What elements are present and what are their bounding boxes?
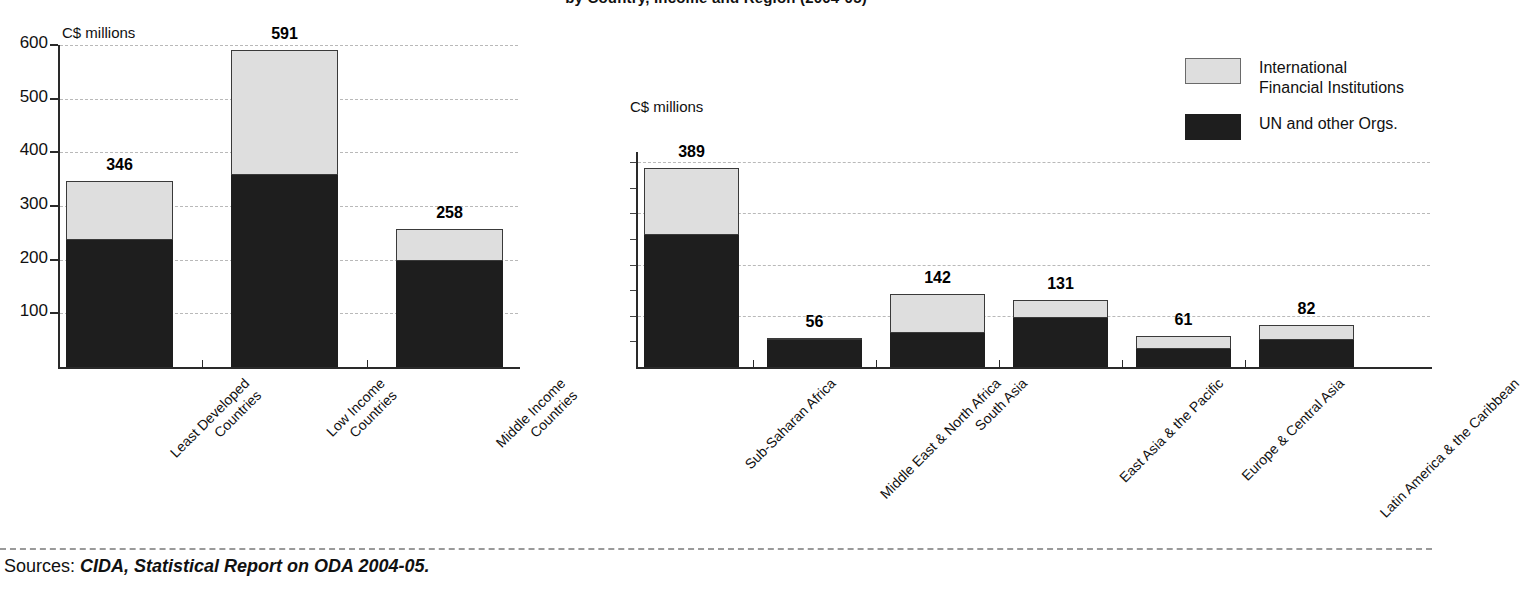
bar-segment-ifi[interactable] [66, 181, 173, 240]
x-axis-category-label: Middle Income Countries [492, 375, 580, 463]
y-axis-tick [630, 265, 636, 266]
bar-segment-un[interactable] [231, 175, 338, 367]
x-axis-category-label: Middle East & North Africa [876, 375, 1003, 502]
income-chart: C$ millions100200300400500600346Least De… [0, 0, 620, 590]
source-citation: CIDA, Statistical Report on ODA 2004-05. [80, 556, 429, 576]
gridline [638, 265, 1430, 266]
bar-value-label: 131 [1047, 275, 1074, 293]
y-axis-tick [630, 162, 636, 163]
legend-swatch-ifi [1185, 58, 1241, 84]
legend-item-un[interactable]: UN and other Orgs. [1185, 114, 1398, 140]
x-axis-line [58, 367, 520, 369]
source-prefix: Sources: [4, 556, 80, 576]
x-axis-tick [202, 360, 203, 367]
y-axis-tick [50, 44, 58, 46]
bar-segment-ifi[interactable] [644, 168, 739, 235]
y-axis-tick [50, 205, 58, 207]
bar[interactable] [396, 229, 503, 367]
x-axis-tick [876, 360, 877, 367]
bar[interactable] [1259, 325, 1354, 367]
y-axis-tick [630, 341, 636, 342]
bar-segment-un[interactable] [66, 240, 173, 367]
x-axis-category-label: Least Developed Countries [166, 375, 264, 473]
bar-segment-un[interactable] [644, 235, 739, 367]
y-axis-line [636, 152, 638, 369]
x-axis-category-label: East Asia & the Pacific [1116, 375, 1227, 486]
y-axis-tick [630, 213, 636, 214]
source-note: Sources: CIDA, Statistical Report on ODA… [4, 556, 429, 577]
bar-value-label: 82 [1298, 300, 1316, 318]
x-axis-line [636, 367, 1432, 369]
y-axis-unit-label: C$ millions [62, 24, 135, 41]
y-axis-tick-label: 100 [0, 301, 48, 321]
bar-segment-ifi[interactable] [1259, 325, 1354, 340]
x-axis-tick [1122, 360, 1123, 367]
y-axis-tick [630, 316, 636, 317]
y-axis-tick [630, 239, 636, 240]
legend: International Financial Institutions UN … [1185, 58, 1435, 144]
gridline [638, 213, 1430, 214]
x-axis-category-label: Low Income Countries [323, 375, 400, 452]
bar-value-label: 56 [806, 313, 824, 331]
y-axis-tick [630, 188, 636, 189]
bar[interactable] [1136, 336, 1231, 367]
bar-segment-un[interactable] [1013, 318, 1108, 367]
y-axis-line [58, 45, 60, 369]
bar-value-label: 258 [436, 204, 463, 222]
y-axis-tick [630, 290, 636, 291]
x-axis-tick [753, 360, 754, 367]
bar-segment-ifi[interactable] [890, 294, 985, 332]
y-axis-unit-label: C$ millions [630, 98, 703, 115]
y-axis-tick-label: 200 [0, 248, 48, 268]
bar-value-label: 346 [106, 156, 133, 174]
y-axis-tick [50, 98, 58, 100]
bar-segment-ifi[interactable] [231, 50, 338, 175]
y-axis-tick [50, 312, 58, 314]
legend-item-ifi[interactable]: International Financial Institutions [1185, 58, 1404, 97]
x-axis-category-label: Europe & Central Asia [1238, 375, 1347, 484]
legend-label-un: UN and other Orgs. [1259, 114, 1398, 134]
bar-segment-un[interactable] [1136, 349, 1231, 367]
y-axis-tick [50, 151, 58, 153]
bar[interactable] [767, 338, 862, 367]
x-axis-category-label: Latin America & the Caribbean [1376, 375, 1522, 521]
bar-segment-un[interactable] [890, 333, 985, 367]
y-axis-tick-label: 400 [0, 140, 48, 160]
bar-segment-un[interactable] [396, 261, 503, 367]
y-axis-tick-label: 600 [0, 33, 48, 53]
x-axis-category-label: Sub-Saharan Africa [741, 375, 839, 473]
bar[interactable] [231, 50, 338, 367]
x-axis-tick [1245, 360, 1246, 367]
bar-segment-ifi[interactable] [1013, 300, 1108, 318]
bar-value-label: 591 [271, 25, 298, 43]
bar[interactable] [66, 181, 173, 367]
y-axis-tick-label: 500 [0, 87, 48, 107]
x-axis-tick [999, 360, 1000, 367]
bar-value-label: 389 [678, 143, 705, 161]
bar-segment-un[interactable] [1259, 340, 1354, 367]
y-axis-tick-label: 300 [0, 194, 48, 214]
gridline [60, 45, 518, 46]
bar-value-label: 142 [924, 269, 951, 287]
legend-swatch-un [1185, 114, 1241, 140]
y-axis-tick [50, 259, 58, 261]
bar-value-label: 61 [1175, 311, 1193, 329]
gridline [638, 162, 1430, 163]
bar[interactable] [890, 294, 985, 367]
bar-segment-un[interactable] [767, 340, 862, 367]
bar-segment-ifi[interactable] [1136, 336, 1231, 349]
footer-divider [0, 548, 1432, 550]
legend-label-ifi: International Financial Institutions [1259, 58, 1404, 97]
bar[interactable] [644, 168, 739, 367]
bar[interactable] [1013, 300, 1108, 367]
x-axis-tick [367, 360, 368, 367]
bar-segment-ifi[interactable] [396, 229, 503, 262]
